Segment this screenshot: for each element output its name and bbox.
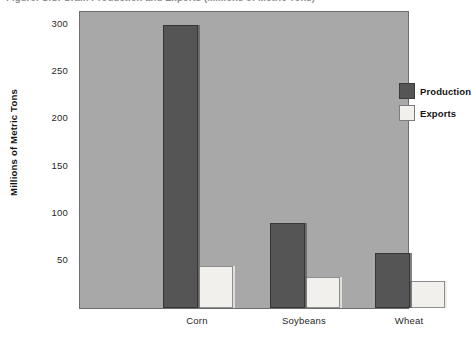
bar-wheat-production	[375, 253, 410, 308]
legend-swatch-exports	[399, 105, 415, 121]
bar-corn-production	[163, 25, 198, 308]
legend-swatch-production	[399, 83, 415, 99]
y-axis-tick-label: 150	[52, 160, 68, 171]
x-axis-label-corn: Corn	[157, 315, 237, 326]
x-axis-label-soybeans: Soybeans	[264, 315, 344, 326]
y-axis-tick-label: 50	[57, 254, 68, 265]
bar-wheat-exports	[410, 281, 445, 308]
legend-item-production: Production	[399, 80, 471, 102]
y-axis-tick-label: 200	[52, 112, 68, 123]
bar-soybeans-exports	[305, 277, 340, 308]
bar-soybeans-production	[270, 223, 305, 308]
legend-label-exports: Exports	[420, 108, 456, 119]
legend-label-production: Production	[420, 86, 471, 97]
x-axis-label-wheat: Wheat	[369, 315, 449, 326]
bar-corn-exports	[198, 266, 233, 308]
y-axis-tick-label: 250	[52, 65, 68, 76]
chart-legend: ProductionExports	[399, 80, 471, 124]
y-axis-tick-label: 100	[52, 207, 68, 218]
y-axis-tick-label: 300	[52, 18, 68, 29]
plot-area: ProductionExports	[79, 11, 409, 309]
y-axis-title: Millions of Metric Tons	[8, 58, 19, 228]
legend-item-exports: Exports	[399, 102, 471, 124]
figure-title: Figure: U.S. Grain Production and Export…	[6, 0, 431, 3]
